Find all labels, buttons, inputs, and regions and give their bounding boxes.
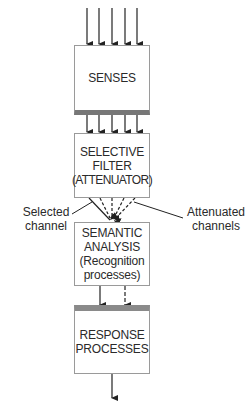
sensory-channel-arrows <box>87 114 137 132</box>
semantic-label-line4: processes) <box>80 268 145 282</box>
filter-label-line2: FILTER <box>72 159 152 173</box>
senses-label: SENSES <box>88 71 136 85</box>
selective-filter-box: SELECTIVE FILTER (ATTENUATOR) <box>74 133 150 198</box>
input-arrows <box>87 8 137 44</box>
semantic-label-line2: ANALYSIS <box>80 240 145 254</box>
semantic-analysis-box: SEMANTIC ANALYSIS (Recognition processes… <box>74 222 150 286</box>
attenuated-pointer <box>134 202 183 218</box>
response-processes-box: RESPONSE PROCESSES <box>74 305 150 374</box>
response-label-line1: RESPONSE <box>76 328 149 342</box>
selected-pointer <box>72 202 92 214</box>
semantic-label-line3: (Recognition <box>80 254 145 268</box>
filter-label-line3: (ATTENUATOR) <box>72 173 152 187</box>
semantic-label-line1: SEMANTIC <box>80 226 145 240</box>
response-label-line2: PROCESSES <box>76 342 149 356</box>
selected-channel-label: Selected channel <box>18 205 74 233</box>
filter-label-line1: SELECTIVE <box>72 145 152 159</box>
attenuated-channels-label: Attenuated channels <box>184 205 248 233</box>
filter-output-arrows <box>89 198 135 220</box>
senses-box: SENSES <box>74 45 150 115</box>
